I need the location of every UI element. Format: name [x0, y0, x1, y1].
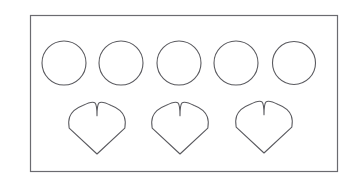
circle-2	[99, 41, 143, 85]
heart-row	[69, 101, 293, 154]
circle-row	[42, 41, 316, 85]
heart-1	[69, 102, 126, 154]
worksheet-border	[31, 16, 338, 172]
heart-2	[152, 102, 209, 154]
shapes-drawing	[0, 0, 356, 173]
heart-3	[236, 101, 293, 153]
circle-1	[42, 41, 86, 85]
circle-4	[214, 41, 258, 85]
circle-5	[273, 42, 316, 85]
circle-3	[157, 41, 201, 85]
worksheet-canvas	[0, 0, 356, 173]
